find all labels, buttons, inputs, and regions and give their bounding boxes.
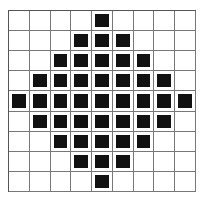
filled-cell [113, 132, 134, 152]
empty-cell [51, 172, 72, 192]
empty-cell [51, 11, 72, 31]
empty-cell [9, 112, 30, 132]
filled-cell [30, 91, 51, 111]
filled-cell [134, 112, 155, 132]
empty-cell [51, 31, 72, 51]
empty-cell [154, 152, 175, 172]
empty-cell [30, 132, 51, 152]
empty-cell [9, 172, 30, 192]
empty-cell [154, 132, 175, 152]
filled-cell [71, 51, 92, 71]
filled-cell [113, 91, 134, 111]
empty-cell [30, 172, 51, 192]
empty-cell [154, 31, 175, 51]
filled-cell [134, 91, 155, 111]
filled-cell [71, 31, 92, 51]
empty-cell [9, 71, 30, 91]
empty-cell [154, 172, 175, 192]
empty-cell [30, 152, 51, 172]
filled-cell [175, 91, 196, 111]
filled-cell [51, 51, 72, 71]
filled-cell [113, 51, 134, 71]
empty-cell [30, 31, 51, 51]
filled-cell [92, 31, 113, 51]
filled-cell [51, 112, 72, 132]
empty-cell [9, 51, 30, 71]
filled-cell [71, 71, 92, 91]
filled-cell [92, 172, 113, 192]
empty-cell [9, 152, 30, 172]
empty-cell [134, 152, 155, 172]
filled-cell [9, 91, 30, 111]
empty-cell [175, 31, 196, 51]
empty-cell [71, 11, 92, 31]
filled-cell [154, 112, 175, 132]
filled-cell [30, 71, 51, 91]
filled-cell [113, 31, 134, 51]
filled-cell [71, 91, 92, 111]
empty-cell [134, 11, 155, 31]
empty-cell [9, 31, 30, 51]
empty-cell [71, 172, 92, 192]
filled-cell [92, 11, 113, 31]
filled-cell [134, 51, 155, 71]
filled-cell [92, 132, 113, 152]
filled-cell [51, 132, 72, 152]
empty-cell [175, 11, 196, 31]
filled-cell [134, 132, 155, 152]
empty-cell [134, 31, 155, 51]
empty-cell [175, 172, 196, 192]
filled-cell [134, 71, 155, 91]
empty-cell [154, 11, 175, 31]
filled-cell [154, 71, 175, 91]
filled-cell [113, 112, 134, 132]
filled-cell [71, 152, 92, 172]
empty-cell [175, 132, 196, 152]
empty-cell [51, 152, 72, 172]
empty-cell [9, 132, 30, 152]
empty-cell [30, 11, 51, 31]
empty-cell [113, 11, 134, 31]
filled-cell [92, 91, 113, 111]
empty-cell [9, 11, 30, 31]
filled-cell [92, 71, 113, 91]
empty-cell [113, 172, 134, 192]
filled-cell [92, 112, 113, 132]
empty-cell [175, 112, 196, 132]
filled-cell [51, 91, 72, 111]
empty-cell [175, 71, 196, 91]
filled-cell [51, 71, 72, 91]
filled-cell [113, 71, 134, 91]
filled-cell [92, 51, 113, 71]
empty-cell [175, 152, 196, 172]
filled-cell [71, 132, 92, 152]
empty-cell [154, 51, 175, 71]
filled-cell [71, 112, 92, 132]
empty-cell [30, 51, 51, 71]
empty-cell [134, 172, 155, 192]
empty-cell [175, 51, 196, 71]
filled-cell [30, 112, 51, 132]
filled-cell [92, 152, 113, 172]
filled-cell [113, 152, 134, 172]
filled-cell [154, 91, 175, 111]
diamond-grid [8, 10, 196, 192]
